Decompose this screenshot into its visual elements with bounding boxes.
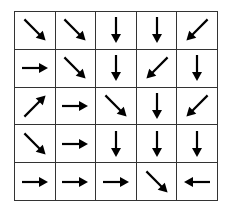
arrow-down-icon (99, 51, 133, 85)
arrow-right-icon (99, 165, 133, 199)
grid-cell: S (96, 125, 137, 163)
grid-cell: S (96, 50, 137, 88)
arrow-down-icon (140, 13, 174, 47)
grid-cell: SE (56, 12, 97, 50)
grid-cell: W (177, 163, 218, 201)
arrow-right-icon (58, 89, 92, 123)
arrow-right-icon (58, 165, 92, 199)
policy-grid: SESESSSWESESSWSNEESESSWSEESSSEEESEW (14, 11, 218, 201)
grid-cell: S (177, 50, 218, 88)
arrow-down-icon (180, 51, 214, 85)
grid-cell: S (177, 125, 218, 163)
arrow-down-right-icon (58, 13, 92, 47)
arrow-down-icon (140, 89, 174, 123)
grid-cell: S (137, 88, 178, 126)
grid-cell: S (137, 125, 178, 163)
arrow-down-left-icon (180, 89, 214, 123)
arrow-down-icon (99, 127, 133, 161)
arrow-down-icon (99, 13, 133, 47)
grid-cell: E (56, 125, 97, 163)
grid-cell: E (15, 163, 56, 201)
grid-cell: S (137, 12, 178, 50)
grid-cell: SW (177, 88, 218, 126)
arrow-down-right-icon (18, 13, 52, 47)
grid-cell: SE (15, 125, 56, 163)
arrow-left-icon (180, 165, 214, 199)
grid-cell: E (56, 163, 97, 201)
arrow-down-left-icon (140, 51, 174, 85)
arrow-down-right-icon (18, 127, 52, 161)
grid-cell: SE (96, 88, 137, 126)
grid-cell: NE (15, 88, 56, 126)
grid-cell: SE (15, 12, 56, 50)
arrow-right-icon (18, 51, 52, 85)
grid-cell: SE (137, 163, 178, 201)
grid-cell: E (96, 163, 137, 201)
grid-cell: E (56, 88, 97, 126)
grid-cell: SW (137, 50, 178, 88)
arrow-down-right-icon (58, 51, 92, 85)
arrow-right-icon (58, 127, 92, 161)
arrow-down-icon (140, 127, 174, 161)
grid-cell: SE (56, 50, 97, 88)
arrow-down-left-icon (180, 13, 214, 47)
arrow-down-right-icon (140, 165, 174, 199)
arrow-down-icon (180, 127, 214, 161)
grid-cell: E (15, 50, 56, 88)
grid-cell: SW (177, 12, 218, 50)
arrow-right-icon (18, 165, 52, 199)
grid-cell: S (96, 12, 137, 50)
arrow-down-right-icon (99, 89, 133, 123)
arrow-up-right-icon (18, 89, 52, 123)
